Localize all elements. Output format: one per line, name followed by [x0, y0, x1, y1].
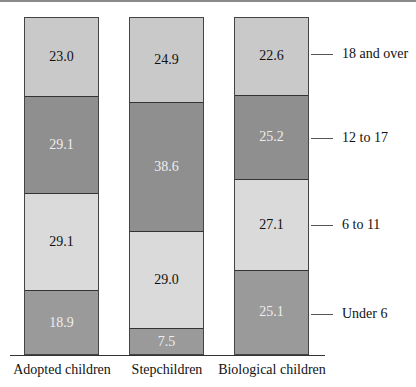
- bar-adopted-children: 23.0 29.1 29.1 18.9: [24, 17, 99, 355]
- segment-under-6: 7.5: [130, 328, 203, 354]
- bar-biological-children: 22.6 25.2 27.1 25.1: [234, 17, 309, 355]
- legend-label: 6 to 11: [342, 217, 380, 233]
- segment-6-to-11: 29.1: [25, 193, 98, 290]
- legend-label: 12 to 17: [342, 130, 388, 146]
- top-border: [0, 0, 416, 2]
- legend-tick: [311, 314, 333, 315]
- x-label-biological: Biological children: [207, 362, 337, 378]
- segment-12-to-17: 25.2: [235, 95, 308, 180]
- x-axis-baseline: [10, 355, 325, 356]
- segment-18-and-over: 23.0: [25, 18, 98, 96]
- segment-under-6: 18.9: [25, 290, 98, 354]
- legend-6-to-11: 6 to 11: [311, 217, 380, 233]
- segment-6-to-11: 27.1: [235, 179, 308, 269]
- segment-6-to-11: 29.0: [130, 231, 203, 328]
- legend-tick: [311, 54, 333, 55]
- legend-12-to-17: 12 to 17: [311, 130, 388, 146]
- segment-12-to-17: 29.1: [25, 96, 98, 193]
- legend-label: Under 6: [342, 306, 388, 322]
- segment-12-to-17: 38.6: [130, 102, 203, 231]
- segment-18-and-over: 22.6: [235, 18, 308, 95]
- segment-18-and-over: 24.9: [130, 18, 203, 102]
- legend-label: 18 and over: [342, 46, 408, 62]
- segment-under-6: 25.1: [235, 270, 308, 355]
- legend-tick: [311, 138, 333, 139]
- legend-18-and-over: 18 and over: [311, 46, 408, 62]
- legend-under-6: Under 6: [311, 306, 388, 322]
- bar-stepchildren: 24.9 38.6 29.0 7.5: [129, 17, 204, 355]
- legend-tick: [311, 225, 333, 226]
